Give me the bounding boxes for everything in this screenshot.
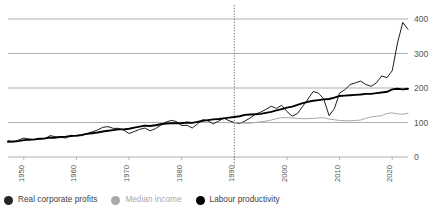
svg-text:2010: 2010 xyxy=(333,165,342,182)
legend-swatch-median-income xyxy=(111,196,120,205)
legend-swatch-real-corporate-profits xyxy=(4,196,13,205)
svg-text:400: 400 xyxy=(414,14,429,24)
svg-text:2000: 2000 xyxy=(280,165,289,182)
svg-text:1950: 1950 xyxy=(17,165,26,182)
svg-text:0: 0 xyxy=(414,152,419,162)
legend-item-labour-productivity[interactable]: Labour productivity xyxy=(196,192,280,208)
x-axis-tick-labels: 19501960197019801990200020102020 xyxy=(17,157,394,182)
chart-legend: Real corporate profits Median income Lab… xyxy=(4,192,280,208)
legend-item-median-income[interactable]: Median income xyxy=(111,192,181,208)
svg-text:100: 100 xyxy=(414,118,429,128)
svg-text:1970: 1970 xyxy=(122,165,131,182)
legend-label-median-income: Median income xyxy=(125,195,181,205)
chart-plot-area: 0100200300400 19501960197019801990200020… xyxy=(0,0,438,210)
legend-label-real-corporate-profits: Real corporate profits xyxy=(18,195,97,205)
svg-text:2020: 2020 xyxy=(385,165,394,182)
chart-container: 0100200300400 19501960197019801990200020… xyxy=(0,0,438,210)
legend-label-labour-productivity: Labour productivity xyxy=(210,195,280,205)
svg-text:1960: 1960 xyxy=(69,165,78,182)
svg-text:200: 200 xyxy=(414,83,429,93)
series-lines xyxy=(8,22,408,141)
svg-text:1980: 1980 xyxy=(175,165,184,182)
svg-text:1990: 1990 xyxy=(227,165,236,182)
svg-text:300: 300 xyxy=(414,49,429,59)
legend-item-real-corporate-profits[interactable]: Real corporate profits xyxy=(4,192,97,208)
legend-swatch-labour-productivity xyxy=(196,196,205,205)
y-axis-tick-labels: 0100200300400 xyxy=(414,14,429,162)
